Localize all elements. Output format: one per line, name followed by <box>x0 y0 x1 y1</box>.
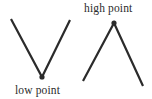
high-point-marker-dot <box>111 20 116 25</box>
diagram-canvas: high point low point <box>0 0 152 99</box>
v-shape-low-point <box>11 19 70 77</box>
inverted-v-shape-high-point <box>83 23 143 86</box>
low-point-marker-dot <box>39 74 44 79</box>
high-point-label: high point <box>84 2 132 15</box>
low-point-label: low point <box>15 84 60 97</box>
